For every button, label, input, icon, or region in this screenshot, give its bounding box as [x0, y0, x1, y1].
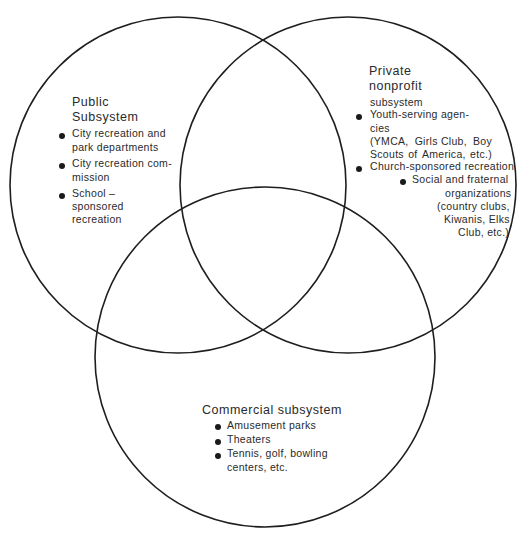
commercial-item-1: Amusement parks	[227, 419, 316, 432]
public-item-2-line2: mission	[72, 171, 110, 184]
private-title-line2: nonprofit	[369, 79, 422, 94]
public-item-1-line1: City recreation and	[72, 127, 166, 140]
public-item-3-line2: sponsored	[72, 200, 124, 213]
bullet-icon	[356, 114, 362, 120]
public-item-2-line1: City recreation com-	[72, 157, 172, 170]
private-item-3-line3: (country clubs,	[437, 200, 510, 213]
bullet-icon	[215, 439, 221, 445]
public-item-1-line2: park departments	[72, 141, 159, 154]
private-item-1-line3: (YMCA, Girls Club, Boy	[370, 135, 492, 148]
private-item-1-line2: cies	[370, 122, 390, 135]
public-item-3-line1: School –	[72, 187, 115, 200]
commercial-item-3-line2: centers, etc.	[227, 461, 288, 474]
private-title-line1: Private	[369, 64, 411, 79]
private-item-3-line1: Social and fraternal	[412, 173, 508, 186]
private-item-3-line2: organizations	[445, 187, 511, 200]
bullet-icon	[215, 424, 221, 430]
public-title-line1: Public	[72, 95, 109, 110]
commercial-item-2: Theaters	[227, 433, 271, 446]
private-item-2-line1: Church-sponsored recreation	[370, 160, 514, 173]
commercial-title: Commercial subsystem	[202, 403, 342, 418]
private-item-1-line1: Youth-serving agen-	[370, 108, 469, 121]
commercial-item-3-line1: Tennis, golf, bowling	[227, 447, 328, 460]
commercial-subsystem-circle	[95, 187, 435, 527]
public-item-3-line3: recreation	[72, 213, 122, 226]
bullet-icon	[215, 453, 221, 459]
public-title-line2: Subsystem	[72, 110, 138, 125]
private-item-3-line4: Kiwanis, Elks	[444, 213, 510, 226]
bullet-icon	[400, 179, 406, 185]
bullet-icon	[59, 163, 65, 169]
bullet-icon	[59, 193, 65, 199]
bullet-icon	[59, 133, 65, 139]
bullet-icon	[356, 166, 362, 172]
public-subsystem-circle	[10, 17, 346, 353]
private-item-3-line5: Club, etc.)	[458, 226, 509, 239]
